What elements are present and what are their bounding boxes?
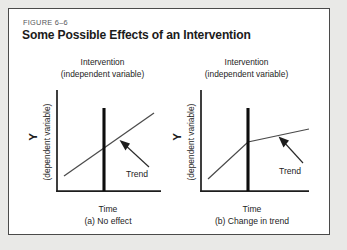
panel-a-plot-area <box>53 87 171 202</box>
panel-a-y-axis-letter: Y <box>27 122 39 152</box>
panel-a-no-effect: Intervention (independent variable) Y (d… <box>25 57 180 233</box>
panel-a-x-axis-label: Time <box>43 203 173 215</box>
panel-a-chart-svg <box>53 87 171 202</box>
figure-container: FIGURE 6–6 Some Possible Effects of an I… <box>8 8 330 235</box>
panel-b-y-axis-label-group: Y (dependent variable) <box>171 93 197 198</box>
panel-b-y-axis-letter: Y <box>171 122 183 152</box>
panel-b-y-axis-sublabel: (dependent variable) <box>186 92 196 192</box>
panel-b-trend-label: Trend <box>279 166 301 176</box>
panel-a-top-caption: Intervention (independent variable) <box>25 57 180 80</box>
panel-a-bottom-caption: Time (a) No effect <box>43 203 173 227</box>
figure-number: FIGURE 6–6 <box>23 18 68 27</box>
panel-a-subcaption: (a) No effect <box>43 215 173 227</box>
panel-b-x-axis-label: Time <box>187 203 317 215</box>
panel-b-caption-line1: Intervention <box>169 57 324 69</box>
panel-b-change-in-trend: Intervention (independent variable) Y (d… <box>169 57 324 233</box>
panel-b-plot-area <box>197 87 315 202</box>
panel-b-subcaption: (b) Change in trend <box>187 215 317 227</box>
panel-a-trend-line <box>64 113 154 176</box>
panel-a-trend-arrow-head <box>120 140 131 151</box>
panel-b-bottom-caption: Time (b) Change in trend <box>187 203 317 227</box>
panel-a-y-axis-sublabel: (dependent variable) <box>42 92 52 192</box>
panel-b-chart-svg <box>197 87 315 202</box>
panel-a-trend-label: Trend <box>126 169 148 179</box>
panel-b-top-caption: Intervention (independent variable) <box>169 57 324 80</box>
panel-a-y-axis-label-group: Y (dependent variable) <box>27 93 53 198</box>
figure-title: Some Possible Effects of an Intervention <box>22 28 251 42</box>
panel-a-caption-line1: Intervention <box>25 57 180 69</box>
panel-a-caption-line2: (independent variable) <box>25 69 180 81</box>
panel-b-caption-line2: (independent variable) <box>169 69 324 81</box>
